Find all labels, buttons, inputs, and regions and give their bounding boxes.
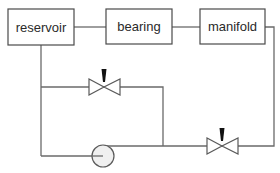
lower-valve[interactable] [207,128,238,154]
hydraulic-diagram: reservoir bearing manifold [0,0,280,173]
manifold-label: manifold [208,19,257,34]
pump[interactable] [92,145,114,167]
valve-icon [207,138,222,154]
reservoir-label: reservoir [16,20,67,35]
pipe-manifold-lower-valve [238,27,274,146]
manifold-block[interactable]: manifold [200,9,265,44]
bearing-block[interactable]: bearing [106,9,172,44]
bearing-label: bearing [117,19,160,34]
reservoir-block[interactable]: reservoir [8,9,74,45]
upper-valve[interactable] [89,69,120,95]
valve-stem-icon [220,128,225,141]
valve-icon [104,79,120,95]
valve-stem-icon [102,69,107,82]
pipe-upper-valve-return [120,87,163,146]
pipes [41,27,274,156]
valve-icon [89,79,104,95]
valve-icon [222,138,238,154]
